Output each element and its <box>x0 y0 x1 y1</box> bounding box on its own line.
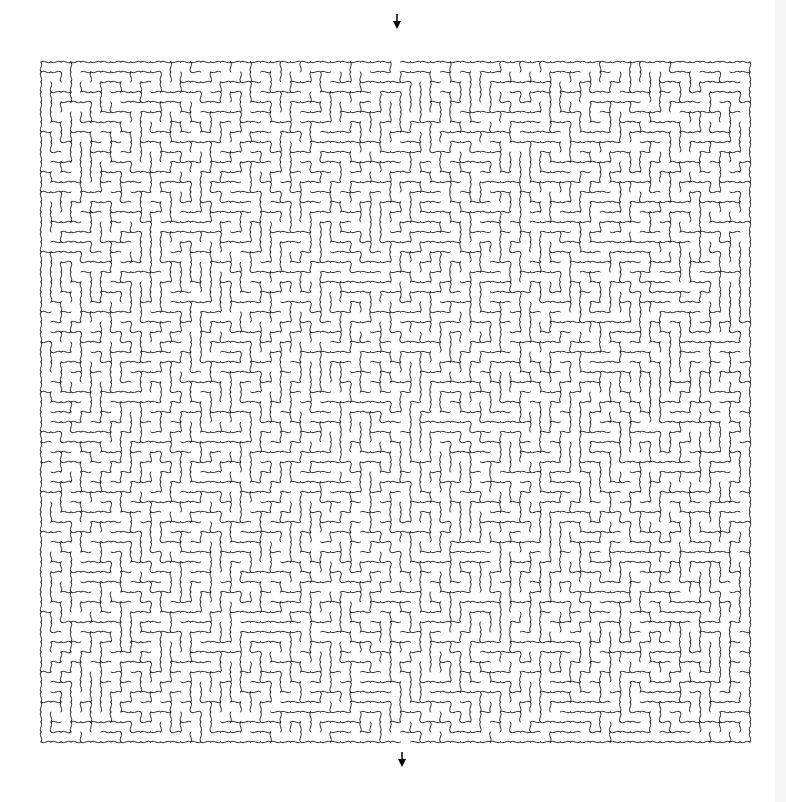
maze-walls <box>40 61 751 743</box>
end-arrow-icon <box>398 752 406 767</box>
maze-svg[interactable] <box>0 0 786 802</box>
start-arrow-icon <box>393 14 401 29</box>
maze-canvas[interactable] <box>0 0 786 802</box>
